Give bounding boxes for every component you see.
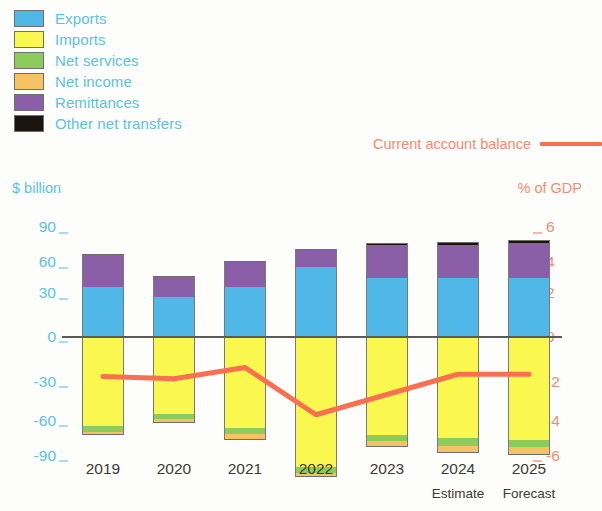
x-label-2021: 2021: [209, 460, 281, 478]
legend-swatch-net-income: [14, 73, 44, 90]
legend-swatch-remittances: [14, 94, 44, 111]
legend-swatch-net-services: [14, 52, 44, 69]
legend-item-remittances: Remittances: [14, 92, 182, 113]
legend-label-remittances: Remittances: [55, 94, 139, 111]
legend-item-imports: Imports: [14, 29, 182, 50]
legend-swatch-imports: [14, 31, 44, 48]
x-label-2024: 2024: [422, 460, 494, 478]
stack-legend: Exports Imports Net services Net income …: [14, 8, 182, 134]
line-legend-swatch: [540, 142, 602, 146]
legend-label-net-services: Net services: [55, 52, 139, 69]
legend-swatch-exports: [14, 10, 44, 27]
legend-item-other-net-transfers: Other net transfers: [14, 113, 182, 134]
legend-label-exports: Exports: [55, 10, 107, 27]
right-axis-title: % of GDP: [518, 180, 582, 196]
legend-item-net-services: Net services: [14, 50, 182, 71]
legend-item-net-income: Net income: [14, 71, 182, 92]
line-legend: Current account balance: [373, 136, 602, 152]
plot-area: 90 60 30 0 -30 -60 -90 6 4 2 0 -2 -4 -6: [0, 200, 584, 460]
x-label-2022: 2022: [280, 460, 352, 478]
legend-label-net-income: Net income: [55, 73, 132, 90]
x-label-2019: 2019: [67, 460, 139, 478]
legend-item-exports: Exports: [14, 8, 182, 29]
legend-label-other-net-transfers: Other net transfers: [55, 115, 182, 132]
legend-label-imports: Imports: [55, 31, 106, 48]
current-account-balance-line: [0, 200, 584, 460]
legend-swatch-other-net-transfers: [14, 115, 44, 132]
x-sublabel-estimate: Estimate: [419, 486, 497, 501]
x-label-2020: 2020: [138, 460, 210, 478]
line-legend-label: Current account balance: [373, 136, 531, 152]
x-axis-labels: 2019 2020 2021 2022 2023 2024 2025 Estim…: [0, 460, 584, 511]
x-label-2025: 2025: [493, 460, 565, 478]
x-label-2023: 2023: [351, 460, 423, 478]
left-axis-title: $ billion: [12, 180, 61, 196]
x-sublabel-forecast: Forecast: [490, 486, 568, 501]
